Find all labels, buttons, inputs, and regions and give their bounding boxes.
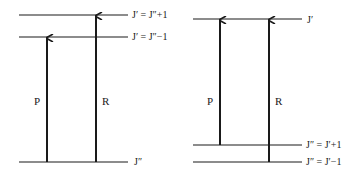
branch-label-p: P xyxy=(34,95,40,107)
energy-level-diagrams: J′ = J″+1 J′ = J″−1 J″ P R J′ J″ = J′+1 … xyxy=(0,0,359,174)
level-label: J′ xyxy=(307,14,313,25)
level-label: J″ xyxy=(134,156,142,167)
level-label: J′ = J″−1 xyxy=(132,31,167,42)
right-diagram: J′ J″ = J′+1 J″ = J′−1 P R xyxy=(193,14,341,167)
branch-label-p: P xyxy=(207,95,213,107)
branch-label-r: R xyxy=(102,95,110,107)
branch-label-r: R xyxy=(275,95,283,107)
left-diagram: J′ = J″+1 J′ = J″−1 J″ P R xyxy=(19,9,167,167)
level-label: J″ = J′−1 xyxy=(306,156,341,167)
level-label: J′ = J″+1 xyxy=(132,9,167,20)
level-label: J″ = J′+1 xyxy=(306,139,341,150)
